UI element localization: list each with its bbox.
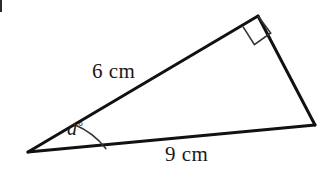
triangle-side-right <box>258 16 315 125</box>
degree-symbol: ° <box>78 118 83 133</box>
angle-label-a-degrees: a° <box>67 118 83 138</box>
side-label-9cm: 9 cm <box>165 144 208 165</box>
triangle-side-6cm <box>28 16 258 152</box>
side-label-6cm: 6 cm <box>92 61 135 82</box>
triangle-figure: 6 cm 9 cm a° <box>0 0 334 173</box>
angle-symbol: a <box>67 117 77 139</box>
